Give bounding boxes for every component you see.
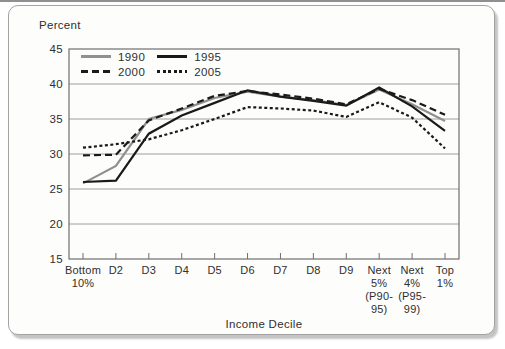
y-tick-label-45: 45 <box>50 43 63 55</box>
x-category-label-10: Next4%(P95-99) <box>398 264 426 315</box>
x-category-label-7: D8 <box>306 264 320 276</box>
legend-label-2005: 2005 <box>194 66 221 78</box>
x-category-label-11: Top1% <box>436 264 454 289</box>
legend-swatch-1995-solid-black <box>157 55 187 57</box>
x-axis-title: Income Decile <box>69 318 459 330</box>
figure-page: Percent 15202530354045Bottom10%D2D3D4D5D… <box>0 0 505 349</box>
x-category-label-3: D4 <box>174 264 188 276</box>
x-category-label-8: D9 <box>339 264 353 276</box>
y-tick-label-35: 35 <box>50 113 63 125</box>
legend-swatch-2005-dotted <box>157 70 187 72</box>
legend-item-1995: 1995 <box>157 50 221 63</box>
legend-swatch-2000-dashed <box>81 70 111 72</box>
legend-label-2000: 2000 <box>118 66 145 78</box>
legend-swatch-1990-solid-gray <box>81 55 111 57</box>
x-category-label-1: D2 <box>109 264 123 276</box>
page-top-rule <box>0 0 505 2</box>
series-line-2005 <box>83 102 445 148</box>
y-tick-label-40: 40 <box>50 78 63 90</box>
x-category-label-4: D5 <box>207 264 221 276</box>
figure-card: Percent 15202530354045Bottom10%D2D3D4D5D… <box>8 5 495 335</box>
y-tick-label-25: 25 <box>50 183 63 195</box>
y-tick-label-20: 20 <box>50 218 63 230</box>
legend-item-1990: 1990 <box>81 50 145 63</box>
legend-item-2000: 2000 <box>81 65 145 78</box>
y-tick-label-15: 15 <box>50 253 63 265</box>
x-category-label-2: D3 <box>142 264 156 276</box>
series-line-1990 <box>83 90 445 184</box>
x-category-label-5: D6 <box>240 264 254 276</box>
x-category-label-0: Bottom10% <box>65 264 101 289</box>
x-category-label-9: Next5%(P90-95) <box>365 264 393 315</box>
chart-legend: 1990 1995 2000 2005 <box>81 50 221 78</box>
y-tick-label-30: 30 <box>50 148 63 160</box>
series-line-2000 <box>83 89 445 155</box>
legend-label-1990: 1990 <box>118 51 145 63</box>
legend-item-2005: 2005 <box>157 65 221 78</box>
legend-label-1995: 1995 <box>194 51 221 63</box>
x-category-label-6: D7 <box>273 264 287 276</box>
